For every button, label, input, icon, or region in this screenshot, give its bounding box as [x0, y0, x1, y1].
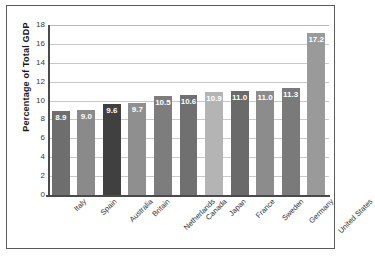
y-tick-12: 12: [27, 78, 45, 86]
bar-netherlands[interactable]: 10.5: [154, 96, 172, 195]
bar-value-label: 10.5: [154, 98, 172, 107]
bar-value-label: 8.9: [52, 113, 70, 122]
bar-value-label: 11.3: [282, 90, 300, 99]
bar-france[interactable]: 11.0: [231, 91, 249, 195]
y-tick-18: 18: [27, 21, 45, 29]
x-label-sweden: Sweden: [280, 197, 306, 223]
chart-frame: Percentage of Total GDP 024681012141618 …: [6, 5, 335, 249]
bar-value-label: 17.2: [307, 35, 325, 44]
bar-germany[interactable]: 11.3: [282, 88, 300, 195]
y-tick-6: 6: [27, 134, 45, 142]
bar-value-label: 9.0: [77, 112, 95, 121]
x-label-spain: Spain: [99, 197, 119, 217]
x-label-germany: Germany: [307, 197, 335, 225]
bar-value-label: 10.6: [180, 97, 198, 106]
bar-sweden[interactable]: 11.0: [256, 91, 274, 195]
bar-value-label: 11.0: [231, 93, 249, 102]
y-axis-tick-labels: 024681012141618: [24, 25, 45, 195]
y-tick-16: 16: [27, 40, 45, 48]
bar-value-label: 10.9: [205, 94, 223, 103]
bar-canada[interactable]: 10.6: [180, 95, 198, 195]
bar-value-label: 9.6: [103, 106, 121, 115]
bar-series: 8.99.09.69.710.510.610.911.011.011.317.2: [48, 25, 329, 195]
x-label-italy: Italy: [72, 197, 88, 213]
x-label-france: France: [253, 197, 276, 220]
y-tick-0: 0: [27, 191, 45, 199]
bar-britain[interactable]: 9.7: [128, 103, 146, 195]
y-tick-4: 4: [27, 153, 45, 161]
bar-italy[interactable]: 8.9: [52, 111, 70, 195]
y-tick-8: 8: [27, 115, 45, 123]
x-axis-category-labels: ItalySpainAustraliaBritainNetherlandsCan…: [48, 197, 329, 255]
x-label-japan: Japan: [227, 197, 248, 218]
bar-japan[interactable]: 10.9: [205, 92, 223, 195]
bar-united-states[interactable]: 17.2: [307, 33, 325, 195]
x-label-britain: Britain: [151, 197, 172, 218]
y-tick-14: 14: [27, 59, 45, 67]
y-tick-2: 2: [27, 172, 45, 180]
bar-value-label: 9.7: [128, 105, 146, 114]
x-label-united-states: United States: [336, 197, 374, 235]
bar-value-label: 11.0: [256, 93, 274, 102]
bar-spain[interactable]: 9.0: [77, 110, 95, 195]
bar-australia[interactable]: 9.6: [103, 104, 121, 195]
y-tick-10: 10: [27, 97, 45, 105]
